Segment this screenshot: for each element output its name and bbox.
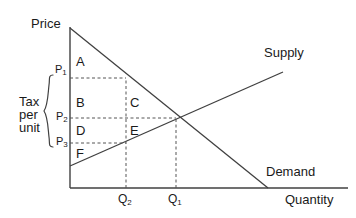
region-label-c: C (130, 96, 139, 109)
demand-curve-label: Demand (266, 165, 315, 178)
price-tick-p1: P1 (55, 64, 67, 75)
supply-demand-diagram: Price Quantity Supply Demand P1 P2 P3 Q2… (0, 0, 356, 218)
region-label-a: A (76, 55, 85, 68)
region-label-d: D (76, 124, 85, 137)
price-tick-p1-sub: 1 (62, 68, 66, 77)
quantity-tick-q2: Q2 (118, 193, 132, 205)
tax-brace-icon (44, 75, 53, 147)
region-label-f: F (76, 147, 84, 160)
price-tick-p3: P3 (56, 136, 68, 147)
quantity-tick-q1-sub: 1 (177, 198, 181, 207)
quantity-tick-q2-base: Q (118, 192, 127, 206)
region-label-e: E (130, 124, 139, 137)
y-axis-title: Price (31, 17, 61, 30)
quantity-tick-q1: Q1 (168, 193, 182, 205)
tax-per-unit-annotation: Tax per unit (19, 95, 40, 134)
price-tick-p2-sub: 2 (63, 115, 67, 124)
price-tick-p3-sub: 3 (63, 140, 67, 149)
quantity-tick-q1-base: Q (168, 192, 177, 206)
quantity-tick-q2-sub: 2 (127, 198, 131, 207)
x-axis-title: Quantity (285, 193, 333, 206)
supply-curve-label: Supply (264, 46, 304, 59)
demand-curve (70, 28, 268, 188)
price-tick-p2: P2 (56, 111, 68, 122)
region-label-b: B (76, 96, 85, 109)
tax-annotation-line-3: unit (19, 121, 40, 134)
diagram-canvas (0, 0, 356, 218)
